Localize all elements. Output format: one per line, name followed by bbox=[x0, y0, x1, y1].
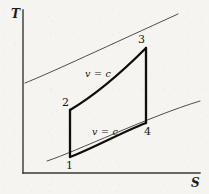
x-axis-label: S bbox=[191, 177, 200, 189]
process-2-3-heat-addition bbox=[70, 48, 146, 110]
state-label-2: 2 bbox=[62, 97, 69, 108]
process-label-upper-vc: v = c bbox=[85, 69, 111, 79]
process-label-lower-vc: v = c bbox=[92, 127, 118, 137]
state-label-3: 3 bbox=[138, 34, 145, 45]
y-axis-label: T bbox=[11, 8, 20, 20]
ts-diagram-figure: T S 1 2 3 4 v = c v = c bbox=[0, 0, 209, 194]
state-label-4: 4 bbox=[144, 126, 151, 137]
cycle-path-group bbox=[70, 48, 146, 157]
ts-diagram-canvas bbox=[0, 0, 209, 194]
state-label-1: 1 bbox=[66, 160, 73, 171]
axes-group bbox=[23, 10, 200, 173]
